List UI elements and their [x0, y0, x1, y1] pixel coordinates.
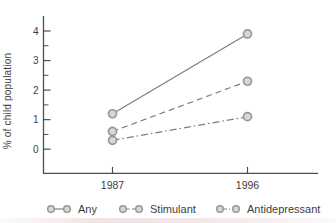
scan-artifact [0, 218, 336, 223]
legend-marker-circle [120, 205, 127, 212]
marker-stimulant-1996 [244, 77, 252, 85]
x-tick-label: 1987 [101, 179, 125, 191]
series-line-stimulant [113, 81, 248, 131]
legend-label-antidepressant: Antidepressant [247, 203, 320, 215]
y-tick-label: 2 [33, 85, 39, 96]
y-tick-label: 4 [33, 26, 39, 37]
line-chart-plot-area: % of child population 0123419871996 [0, 0, 336, 196]
legend-label-any: Any [78, 203, 97, 215]
legend-marker-circle [48, 205, 55, 212]
axes [44, 16, 319, 173]
series-line-any [113, 34, 248, 114]
legend-marker-circle [64, 205, 71, 212]
legend: Any Stimulant Antidepressant [0, 201, 336, 217]
figure-psychotropic-prevalence-chart: % of child population 0123419871996 Any … [0, 0, 336, 223]
legend-marker-circle [136, 205, 143, 212]
y-tick-label: 1 [33, 114, 39, 125]
y-tick-label: 3 [33, 55, 39, 66]
legend-marker-any-solid [46, 203, 72, 215]
legend-marker-antidepressant-dashdot [215, 203, 241, 215]
y-axis-title: % of child population [2, 53, 13, 150]
marker-any-1996 [244, 30, 252, 38]
y-tick-label: 0 [33, 144, 39, 155]
legend-label-stimulant: Stimulant [150, 203, 196, 215]
legend-marker-stimulant-dashed [118, 203, 144, 215]
marker-any-1987 [109, 110, 117, 118]
legend-entry-any: Any [46, 201, 97, 216]
marker-stimulant-1987 [109, 127, 117, 135]
series-line-antidepressant [113, 117, 248, 141]
marker-antidepressant-1987 [109, 136, 117, 144]
legend-marker-circle [233, 205, 240, 212]
x-tick-label: 1996 [236, 179, 260, 191]
plot-group: 0123419871996 [33, 16, 318, 191]
legend-marker-circle [217, 205, 224, 212]
legend-entry-stimulant: Stimulant [118, 201, 196, 216]
legend-entry-antidepressant: Antidepressant [215, 201, 320, 216]
marker-antidepressant-1996 [244, 113, 252, 121]
